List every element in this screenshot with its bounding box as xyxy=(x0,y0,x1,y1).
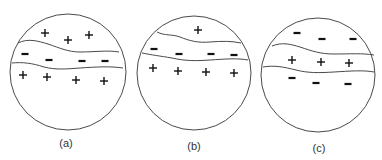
panel-c: (c) xyxy=(261,18,375,154)
negative-charge-icon xyxy=(350,38,357,40)
negative-charge-icon xyxy=(22,53,29,55)
negative-charge-icon xyxy=(289,77,296,79)
negative-charge-icon xyxy=(231,54,238,56)
sphere-outline xyxy=(261,18,375,132)
positive-charge-icon xyxy=(41,29,49,37)
positive-charge-icon xyxy=(174,67,182,75)
lower-boundary-line xyxy=(12,63,123,69)
negative-charge-icon xyxy=(319,38,326,40)
upper-boundary-line xyxy=(272,44,374,55)
positive-charge-icon xyxy=(19,71,27,79)
panel-label: (a) xyxy=(59,137,72,149)
negative-charge-icon xyxy=(46,59,53,61)
negative-charge-icon xyxy=(151,48,158,50)
negative-charge-icon xyxy=(208,53,215,55)
positive-charge-icon xyxy=(149,64,157,72)
lower-boundary-line xyxy=(263,66,374,72)
positive-charge-icon xyxy=(288,56,296,64)
charge-layer-diagram: (a) (b) (c) xyxy=(0,0,382,160)
panel-a: (a) xyxy=(10,14,126,149)
positive-charge-icon xyxy=(43,73,51,81)
negative-charge-icon xyxy=(294,32,301,34)
panel-label: (b) xyxy=(187,140,200,152)
negative-charge-icon xyxy=(313,82,320,84)
positive-charge-icon xyxy=(317,58,325,66)
positive-charge-icon xyxy=(345,59,353,67)
upper-boundary-line xyxy=(157,32,241,43)
positive-charge-icon xyxy=(194,26,202,34)
positive-charge-icon xyxy=(85,31,93,39)
negative-charge-icon xyxy=(102,60,109,62)
sphere-outline xyxy=(10,14,126,130)
panel-label: (c) xyxy=(313,142,326,154)
positive-charge-icon xyxy=(64,36,72,44)
negative-charge-icon xyxy=(345,83,352,85)
positive-charge-icon xyxy=(230,69,238,77)
negative-charge-icon xyxy=(79,60,86,62)
positive-charge-icon xyxy=(202,68,210,76)
positive-charge-icon xyxy=(100,77,108,85)
positive-charge-icon xyxy=(72,76,80,84)
panel-b: (b) xyxy=(137,16,251,152)
negative-charge-icon xyxy=(176,53,183,55)
